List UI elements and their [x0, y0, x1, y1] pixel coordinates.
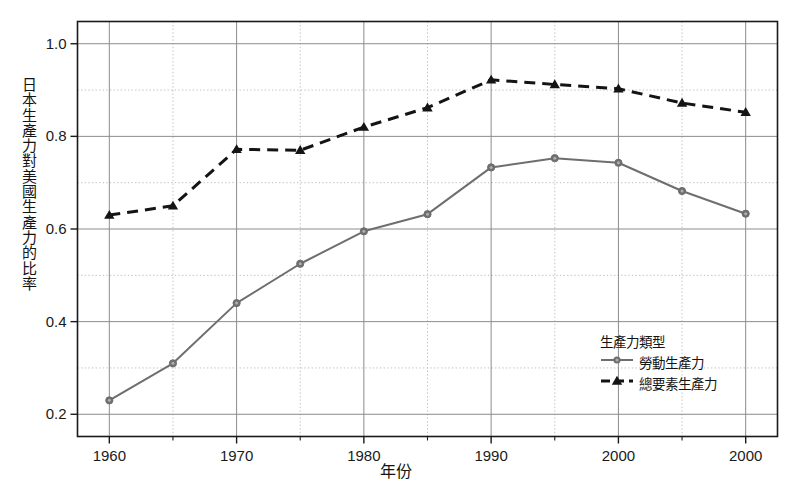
y-tick-label: 0.4 — [27, 313, 67, 330]
y-axis-title: 日本生產力對美國生產力的比率 — [14, 78, 44, 292]
y-tick-label: 0.2 — [27, 405, 67, 422]
y-axis-title-char: 國 — [14, 185, 44, 200]
productivity-ratio-line-chart: 日本生產力對美國生產力的比率 年份 0.20.40.60.81.0 196019… — [0, 0, 791, 500]
legend-glyphs — [601, 356, 633, 384]
y-axis-title-char: 美 — [14, 170, 44, 185]
y-axis-title-char: 生 — [14, 109, 44, 124]
x-tick-label: 1960 — [74, 447, 144, 464]
legend-item-labor-productivity[interactable]: 勞動生產力 — [639, 352, 704, 372]
x-tick-label: 2000 — [583, 447, 653, 464]
legend-title: 生產力類型 — [600, 331, 665, 351]
y-axis-title-char: 本 — [14, 93, 44, 108]
y-tick-label: 0.8 — [27, 127, 67, 144]
x-tick-label: 1990 — [456, 447, 526, 464]
x-tick-label: 1970 — [202, 447, 272, 464]
x-tick-label: 2000 — [711, 447, 781, 464]
y-tick-label: 1.0 — [27, 35, 67, 52]
series-total-factor-productivity — [104, 75, 751, 219]
y-axis-title-char: 率 — [14, 277, 44, 292]
x-tick-label: 1980 — [329, 447, 399, 464]
chart-canvas — [0, 0, 791, 500]
legend-item-total-factor-productivity[interactable]: 總要素生產力 — [639, 373, 717, 393]
y-axis-title-char: 比 — [14, 262, 44, 277]
y-axis-title-char: 對 — [14, 154, 44, 169]
y-axis-title-char: 日 — [14, 78, 44, 93]
y-tick-label: 0.6 — [27, 220, 67, 237]
y-axis-title-char: 的 — [14, 246, 44, 261]
y-axis-title-char: 生 — [14, 200, 44, 215]
